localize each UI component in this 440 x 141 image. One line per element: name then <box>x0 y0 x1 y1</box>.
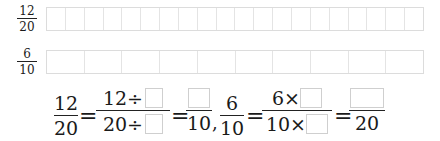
denominator: 20 <box>19 19 34 33</box>
strip-cell <box>47 51 85 73</box>
numerator <box>350 88 384 110</box>
numerator: 12 <box>54 94 78 115</box>
strip-cell <box>254 8 273 30</box>
answer-box-multiplier-bottom[interactable] <box>306 114 328 134</box>
denominator: 10 <box>220 116 244 138</box>
numerator: 12 <box>19 5 34 18</box>
answer-box-numerator[interactable] <box>188 88 210 108</box>
eq1-middle-fraction: 12÷ 20÷ <box>96 88 170 134</box>
strip-cell <box>122 8 141 30</box>
strip-cell <box>179 8 198 30</box>
answer-box-divisor-top[interactable] <box>145 88 163 108</box>
eq2-rhs-fraction: 20 <box>349 88 385 133</box>
denominator: 20÷ <box>103 111 163 134</box>
strip-cell <box>349 51 387 73</box>
strip-cell <box>273 8 292 30</box>
eq2-middle-fraction: 6× 10× <box>262 88 332 134</box>
strip-cell <box>66 8 85 30</box>
strip-cell <box>217 8 236 30</box>
denominator: 20 <box>54 116 78 138</box>
strip-cell <box>141 8 160 30</box>
denominator: 10 <box>187 111 211 133</box>
strip-cell <box>104 8 123 30</box>
eq1-rhs-fraction: 10 <box>186 88 212 133</box>
equals-sign: = <box>79 105 97 127</box>
strip-cell <box>330 8 349 30</box>
comma-separator: , <box>212 112 218 133</box>
strip-cell <box>273 51 311 73</box>
denominator: 10 <box>19 62 34 76</box>
numerator: 6× <box>272 88 322 110</box>
strip-cell <box>311 8 330 30</box>
strip-cell <box>160 8 179 30</box>
strip-cell <box>405 8 423 30</box>
strip-cell <box>235 8 254 30</box>
denominator-text: 10× <box>266 115 306 134</box>
numerator <box>188 88 210 110</box>
denominator: 20 <box>355 111 379 133</box>
eq1-lhs-fraction: 12 20 <box>54 94 78 138</box>
strip-cell <box>367 8 386 30</box>
answer-box-numerator[interactable] <box>350 88 384 108</box>
strip-cell <box>160 51 198 73</box>
denominator-text: 20÷ <box>103 115 143 134</box>
answer-box-multiplier-top[interactable] <box>300 88 322 108</box>
numerator: 12÷ <box>103 88 163 110</box>
fraction-strip-tenths <box>46 50 424 74</box>
fraction-strip-twentieths <box>46 7 424 31</box>
strip-cell <box>292 8 311 30</box>
strip-cell <box>311 51 349 73</box>
strip-cell <box>386 8 405 30</box>
numerator-text: 6× <box>272 89 300 108</box>
strip-cell <box>85 8 104 30</box>
strip-cell <box>85 51 123 73</box>
strip-cell <box>386 51 423 73</box>
strip-label-6-10: 6 10 <box>17 48 37 76</box>
eq2-lhs-fraction: 6 10 <box>220 94 244 138</box>
strip-cell <box>349 8 368 30</box>
numerator: 6 <box>23 48 31 61</box>
strip-cell <box>198 8 217 30</box>
strip-cell <box>236 51 274 73</box>
strip-cell <box>198 51 236 73</box>
denominator: 10× <box>266 111 328 134</box>
answer-box-divisor-bottom[interactable] <box>145 114 163 134</box>
numerator: 6 <box>226 94 238 115</box>
numerator-text: 12÷ <box>103 89 143 108</box>
strip-cell <box>122 51 160 73</box>
strip-label-12-20: 12 20 <box>17 5 37 33</box>
strip-cell <box>47 8 66 30</box>
